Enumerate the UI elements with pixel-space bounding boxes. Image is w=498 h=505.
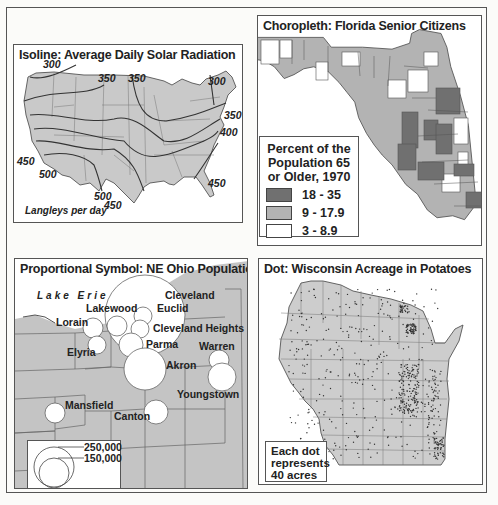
contour-label: 500 [39, 168, 57, 180]
city-label-akron: Akron [166, 359, 196, 371]
legend-class-label: 9 - 17.9 [302, 206, 344, 220]
unit-label: Langleys per day [25, 205, 107, 216]
city-label-mansfield: Mansfield [65, 399, 113, 411]
city-label-lakewood: Lakewood [86, 302, 137, 314]
legend-title-line: or Older, 1970 [260, 170, 358, 184]
dot-legend-line: 40 acres [271, 469, 326, 481]
dot-density-map-panel: Dot: Wisconsin Acreage in Potatoes Each … [258, 258, 483, 485]
proportional-legend: 250,000 150,000 [27, 440, 121, 489]
city-label-canton: Canton [114, 410, 150, 422]
legend-class-label: 3 - 8.9 [302, 224, 337, 238]
city-label-cleveland: Cleveland [165, 289, 215, 301]
legend-class-low: 3 - 8.9 [266, 224, 358, 238]
choropleth-legend: Percent of the Population 65 or Older, 1… [259, 136, 359, 237]
contour-label: 350 [128, 72, 146, 84]
legend-class-high: 18 - 35 [266, 188, 358, 202]
city-label-lorain: Lorain [56, 316, 88, 328]
lake-erie-label: Lake Erie [37, 290, 108, 301]
legend-class-label: 18 - 35 [302, 188, 341, 202]
dot-legend-line: represents [271, 457, 326, 469]
contour-label: 350 [98, 72, 116, 84]
city-label-cleveland-heights: Cleveland Heights [153, 322, 244, 334]
choropleth-map-panel: Choropleth: Florida Senior Citizens Perc… [257, 15, 482, 246]
legend-value-small: 150,000 [84, 452, 122, 464]
swatch-light [266, 224, 292, 238]
contour-label: 450 [17, 155, 35, 167]
ohio-title: Proportional Symbol: NE Ohio Population [20, 262, 248, 276]
city-label-parma: Parma [146, 338, 178, 350]
contour-label: 350 [224, 109, 242, 121]
legend-class-mid: 9 - 17.9 [266, 206, 358, 220]
city-label-youngstown: Youngstown [177, 388, 239, 400]
legend-title-line: Population 65 [260, 156, 358, 170]
city-label-warren: Warren [199, 340, 235, 352]
swatch-medium [266, 206, 292, 220]
contour-label: 400 [220, 126, 238, 138]
contour-label: 300 [208, 75, 226, 87]
contour-label: 300 [43, 58, 61, 70]
contour-label: 450 [208, 177, 226, 189]
dot-legend: Each dot represents 40 acres [265, 441, 327, 482]
swatch-dark [266, 188, 292, 202]
city-label-elyria: Elyria [67, 346, 96, 358]
choropleth-title: Choropleth: Florida Senior Citizens [263, 19, 466, 33]
isoline-map-panel: Isoline: Average Daily Solar Radiation 3… [13, 44, 243, 223]
proportional-symbol-map-panel: Proportional Symbol: NE Ohio Population … [14, 258, 248, 489]
legend-title-line: Percent of the [260, 142, 358, 156]
city-label-euclid: Euclid [157, 302, 189, 314]
dot-legend-line: Each dot [271, 445, 326, 457]
dot-map-title: Dot: Wisconsin Acreage in Potatoes [264, 262, 471, 276]
